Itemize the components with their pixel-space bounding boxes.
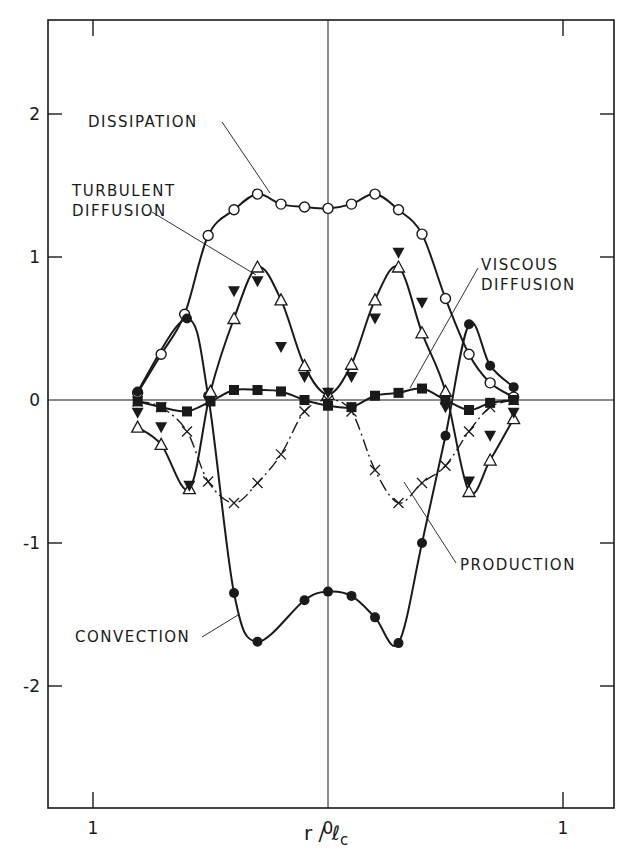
marker-cross <box>417 478 427 488</box>
leader-lines <box>152 122 478 637</box>
marker-cross <box>203 477 213 487</box>
label-production: PRODUCTION <box>460 556 576 574</box>
marker-open-circle <box>347 199 357 209</box>
marker-filled-triangle <box>299 372 311 383</box>
marker-filled-circle <box>417 538 427 548</box>
marker-cross <box>300 406 310 416</box>
marker-filled-square <box>441 395 451 405</box>
marker-filled-circle <box>182 313 192 323</box>
leader-production <box>404 482 456 563</box>
label-turbulent-line1: TURBULENT <box>71 182 176 200</box>
marker-filled-circle <box>485 361 495 371</box>
label-dissipation: DISSIPATION <box>88 113 198 131</box>
marker-open-triangle <box>132 421 144 432</box>
leader-dissipation <box>222 122 270 193</box>
marker-filled-circle <box>347 591 357 601</box>
marker-filled-circle <box>441 431 451 441</box>
marker-cross <box>182 426 192 436</box>
curve-production <box>138 400 514 503</box>
label-viscous-line2: DIFFUSION <box>481 276 576 294</box>
marker-filled-square <box>464 405 474 415</box>
marker-filled-triangle <box>228 286 240 297</box>
marker-filled-square <box>370 391 380 401</box>
x-axis-label-sub: c <box>340 831 348 849</box>
marker-open-circle <box>300 202 310 212</box>
marker-cross <box>276 449 286 459</box>
marker-open-circle <box>485 378 495 388</box>
marker-open-circle <box>203 231 213 241</box>
marker-open-circle <box>394 205 404 215</box>
marker-cross <box>253 478 263 488</box>
label-turbulent-line2: DIFFUSION <box>72 202 167 220</box>
marker-filled-circle <box>464 319 474 329</box>
marker-filled-circle <box>133 386 143 396</box>
marker-filled-square <box>300 395 310 405</box>
marker-open-triangle <box>346 358 358 369</box>
marker-open-triangle <box>299 360 311 371</box>
marker-filled-triangle <box>346 372 358 383</box>
plot-border <box>48 20 614 808</box>
marker-open-circle <box>417 229 427 239</box>
marker-filled-triangle <box>508 408 520 419</box>
marker-open-circle <box>464 349 474 359</box>
marker-filled-triangle <box>275 342 287 353</box>
energy-budget-chart: 210-1-2101 DISSIPATION TURBULENT DIFFUSI… <box>0 0 621 858</box>
marker-open-circle <box>156 349 166 359</box>
marker-filled-circle <box>509 382 519 392</box>
marker-filled-circle <box>394 638 404 648</box>
marker-filled-square <box>323 401 333 411</box>
x-tick-label: 1 <box>558 818 569 838</box>
marker-filled-circle <box>253 637 263 647</box>
marker-filled-triangle <box>416 298 428 309</box>
axis-ticks: 210-1-2101 <box>23 20 614 838</box>
marker-filled-square <box>253 385 263 395</box>
marker-open-circle <box>441 293 451 303</box>
marker-filled-square <box>229 385 239 395</box>
marker-cross <box>464 426 474 436</box>
marker-filled-triangle <box>132 408 144 419</box>
marker-open-circle <box>229 205 239 215</box>
curves <box>138 194 514 646</box>
markers <box>132 189 520 648</box>
y-tick-label: -1 <box>23 533 40 553</box>
x-axis-label: r / ℓc <box>304 821 348 849</box>
marker-open-circle <box>276 199 286 209</box>
marker-open-triangle <box>228 312 240 323</box>
plot-frame <box>48 20 614 808</box>
leader-convection <box>202 615 238 637</box>
y-tick-label: -2 <box>23 676 40 696</box>
marker-filled-circle <box>300 595 310 605</box>
marker-filled-triangle <box>252 276 264 287</box>
curve-turbulent-diffusion-open-triangle <box>138 266 514 494</box>
y-tick-label: 1 <box>29 247 40 267</box>
marker-filled-square <box>394 388 404 398</box>
marker-filled-triangle <box>484 431 496 442</box>
marker-open-circle <box>370 189 380 199</box>
x-tick-label: 1 <box>88 818 99 838</box>
marker-filled-square <box>417 384 427 394</box>
marker-filled-circle <box>370 612 380 622</box>
marker-filled-circle <box>229 588 239 598</box>
label-viscous-line1: VISCOUS <box>481 256 559 274</box>
marker-filled-square <box>182 406 192 416</box>
marker-filled-circle <box>323 587 333 597</box>
marker-open-triangle <box>484 454 496 465</box>
marker-filled-triangle <box>155 422 167 433</box>
marker-open-triangle <box>440 385 452 396</box>
marker-filled-triangle <box>393 248 405 259</box>
marker-open-triangle <box>369 294 381 305</box>
marker-open-triangle <box>416 327 428 338</box>
marker-cross <box>229 498 239 508</box>
x-axis-label-main: r / ℓ <box>304 821 340 845</box>
marker-filled-square <box>276 386 286 396</box>
y-tick-label: 2 <box>29 104 40 124</box>
label-convection: CONVECTION <box>75 628 190 646</box>
marker-open-triangle <box>275 294 287 305</box>
leader-turbulent <box>152 212 256 275</box>
marker-cross <box>370 465 380 475</box>
marker-cross <box>441 461 451 471</box>
marker-open-circle <box>253 189 263 199</box>
marker-open-circle <box>323 203 333 213</box>
marker-filled-square <box>206 396 216 406</box>
marker-filled-triangle <box>369 313 381 324</box>
